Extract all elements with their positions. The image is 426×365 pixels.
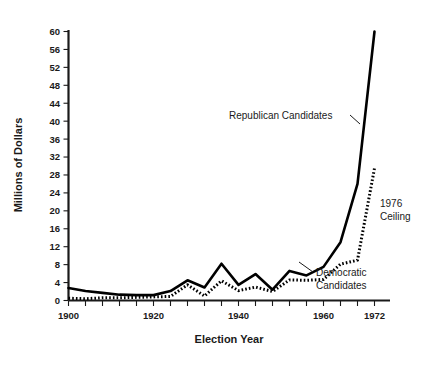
y-tick-label: 4 xyxy=(55,277,61,288)
republican-leader-line xyxy=(350,115,360,124)
y-tick-label: 44 xyxy=(49,98,60,109)
y-tick-label: 24 xyxy=(49,187,60,198)
ceiling-label-line2: Ceiling xyxy=(380,211,411,222)
ceiling-label-line1: 1976 xyxy=(380,198,403,209)
y-axis-tick-labels: 04812162024283236404448525660 xyxy=(49,26,60,306)
y-tick-label: 56 xyxy=(49,44,60,55)
y-tick-label: 52 xyxy=(49,62,60,73)
y-tick-label: 0 xyxy=(55,295,60,306)
x-axis-title: Election Year xyxy=(195,333,265,345)
x-tick-label: 1960 xyxy=(313,310,334,321)
y-tick-label: 8 xyxy=(55,259,60,270)
y-tick-label: 32 xyxy=(49,151,60,162)
y-axis-title: Millions of Dollars xyxy=(12,118,24,213)
y-tick-label: 28 xyxy=(49,169,60,180)
y-tick-label: 40 xyxy=(49,116,60,127)
chart-canvas: 04812162024283236404448525660 1900192019… xyxy=(0,0,426,365)
y-tick-label: 60 xyxy=(49,26,60,37)
y-tick-label: 48 xyxy=(49,80,60,91)
x-tick-label: 1940 xyxy=(228,310,249,321)
republican-series-label: Republican Candidates xyxy=(229,110,332,121)
democratic-series-label-line1: Democratic xyxy=(316,267,367,278)
y-tick-label: 36 xyxy=(49,134,60,145)
democratic-leader-line xyxy=(299,262,313,272)
x-tick-label: 1972 xyxy=(364,310,385,321)
x-tick-label: 1920 xyxy=(143,310,164,321)
campaign-spending-chart: 04812162024283236404448525660 1900192019… xyxy=(0,0,426,365)
y-tick-label: 20 xyxy=(49,205,60,216)
series-line-republican xyxy=(69,32,375,296)
x-tick-label: 1900 xyxy=(58,310,79,321)
democratic-series-label-line2: Candidates xyxy=(316,280,367,291)
y-tick-label: 12 xyxy=(49,241,60,252)
x-axis-tick-labels: 19001920194019601972 xyxy=(58,310,385,321)
y-tick-label: 16 xyxy=(49,223,60,234)
